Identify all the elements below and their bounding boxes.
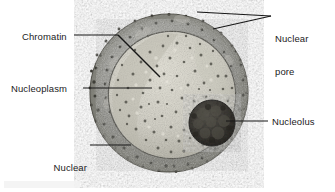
- label-nuclear-envelope-line1: Nuclear: [25, 162, 87, 173]
- cropped-caption-artifact: [4, 181, 80, 188]
- label-nuclear-pore-line2: pore: [275, 66, 331, 77]
- label-nuclear-pore: Nuclear pore: [275, 11, 331, 99]
- nucleolus-body: [189, 100, 235, 146]
- leader-nuclear-pore-lower: [213, 16, 271, 29]
- label-nuclear-pore-line1: Nuclear: [275, 33, 331, 44]
- label-nucleolus: Nucleolus: [272, 116, 315, 127]
- label-chromatin: Chromatin: [22, 31, 67, 42]
- label-nucleoplasm: Nucleoplasm: [11, 83, 67, 94]
- nucleus-diagram-figure: Chromatin Nucleoplasm Nuclear envelope N…: [0, 0, 335, 192]
- leader-nuclear-pore-upper: [197, 12, 271, 16]
